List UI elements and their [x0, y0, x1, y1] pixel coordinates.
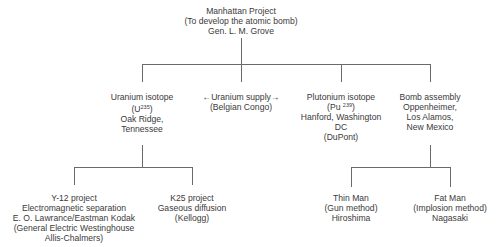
connector-bomb-down [430, 145, 431, 167]
formula-prefix: (Pu [327, 102, 343, 112]
branch-location-1: Los Alamos, [399, 112, 460, 122]
connector-thin-man [351, 167, 352, 187]
connector-uranium-down [142, 145, 143, 167]
leaf-thin-man: Thin Man (Gun method) Hiroshima [324, 193, 377, 223]
branch-uranium-isotope: Uranium isotope (U235) Oak Ridge, Tennes… [111, 92, 174, 134]
branch-plutonium-isotope: Plutonium isotope (Pu 239) Hanford, Wash… [301, 92, 381, 142]
leaf-k25-project: K25 project Gaseous diffusion (Kellogg) [158, 193, 227, 223]
connector-y12 [74, 167, 75, 185]
connector-root-down [241, 38, 242, 64]
leaf-y12-project: Y-12 project Electromagnetic separation … [13, 193, 135, 243]
branch-leader: Oppenheimer, [399, 102, 460, 112]
leaf-title: Y-12 project [13, 193, 135, 203]
leaf-contractor: (Kellogg) [158, 213, 227, 223]
root-leader: Gen. L. M. Grove [184, 26, 297, 36]
branch-title: ←Uranium supply→ [203, 92, 280, 102]
leaf-people: E. O. Lawrance/Eastman Kodak [13, 213, 135, 223]
branch-title: Bomb assembly [399, 92, 460, 102]
branch-location-2: DC [301, 122, 381, 132]
leaf-method: (Gun method) [324, 203, 377, 213]
branch-location-1: Hanford, Washington [301, 112, 381, 122]
leaf-method: Electromagnetic separation [13, 203, 135, 213]
root-purpose: (To develop the atomic bomb) [184, 16, 297, 26]
isotope-formula: (U235) [111, 104, 174, 114]
formula-suffix: ) [150, 104, 153, 114]
leaf-title: K25 project [158, 193, 227, 203]
leaf-title: Fat Man [413, 193, 487, 203]
branch-title: Plutonium isotope [301, 92, 381, 102]
leaf-target: Nagasaki [413, 213, 487, 223]
formula-mass-number: 239 [343, 102, 352, 108]
leaf-method: Gaseous diffusion [158, 203, 227, 213]
formula-prefix: (U [131, 104, 140, 114]
connector-plutonium-isotope [341, 64, 342, 82]
formula-mass-number: 235 [141, 104, 150, 110]
leaf-method: (Implosion method) [413, 203, 487, 213]
leaf-contractors-1: (General Electric Westinghouse [13, 223, 135, 233]
connector-fat-man [450, 167, 451, 187]
root-node-manhattan-project: Manhattan Project (To develop the atomic… [184, 6, 297, 36]
branch-source: (Belgian Congo) [203, 102, 280, 112]
branch-location-2: Tennessee [111, 124, 174, 134]
branch-uranium-supply: ←Uranium supply→ (Belgian Congo) [203, 92, 280, 112]
isotope-formula: (Pu 239) [301, 102, 381, 112]
branch-bomb-assembly: Bomb assembly Oppenheimer, Los Alamos, N… [399, 92, 460, 132]
connector-bomb-assembly [430, 64, 431, 82]
connector-bomb-bar [351, 167, 451, 168]
connector-uranium-isotope [142, 64, 143, 82]
leaf-fat-man: Fat Man (Implosion method) Nagasaki [413, 193, 487, 223]
formula-suffix: ) [352, 102, 355, 112]
branch-location-1: Oak Ridge, [111, 114, 174, 124]
branch-contractor: (DuPont) [301, 132, 381, 142]
leaf-target: Hiroshima [324, 213, 377, 223]
connector-branch-bar [142, 64, 431, 65]
branch-location-2: New Mexico [399, 122, 460, 132]
branch-title: Uranium isotope [111, 92, 174, 102]
connector-k25 [192, 167, 193, 185]
leaf-contractors-2: Allis-Chalmers) [13, 233, 135, 243]
root-title: Manhattan Project [184, 6, 297, 16]
connector-uranium-bar [74, 167, 193, 168]
leaf-title: Thin Man [324, 193, 377, 203]
connector-uranium-supply [241, 64, 242, 82]
